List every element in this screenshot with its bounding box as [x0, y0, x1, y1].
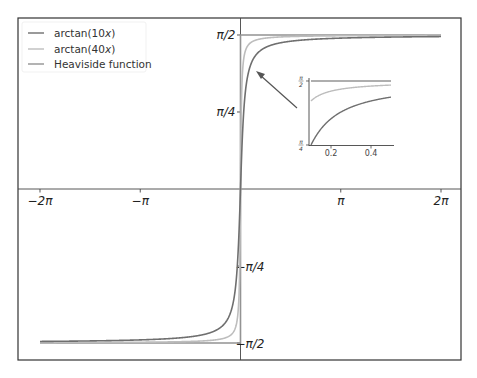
x-tick-label: −2π — [28, 194, 54, 208]
y-tick-label: π/4 — [217, 105, 236, 119]
x-tick-label: −π — [132, 194, 150, 208]
inset-y-tick-den: 2 — [299, 81, 303, 88]
x-tick-label: π — [337, 194, 345, 208]
inset-y-tick-num: π — [299, 74, 303, 81]
y-tick-label: π/2 — [217, 28, 236, 42]
inset-x-tick-label: 0.2 — [325, 149, 338, 158]
inset-y-tick-den: 4 — [299, 145, 303, 152]
legend: arctan(10x) arctan(40x) Heaviside functi… — [22, 22, 152, 72]
chart: −2π−ππ2π π/2π/4−π/4−π/2 arctan(10x) arct… — [0, 0, 477, 378]
legend-label-arctan10: arctan(10x) — [54, 27, 115, 39]
inset-y-tick-num: π — [299, 138, 303, 145]
legend-label-arctan40: arctan(40x) — [54, 43, 115, 55]
x-tick-label: 2π — [434, 194, 450, 208]
legend-label-heaviside: Heaviside function — [54, 58, 152, 70]
inset-x-tick-label: 0.4 — [365, 149, 378, 158]
